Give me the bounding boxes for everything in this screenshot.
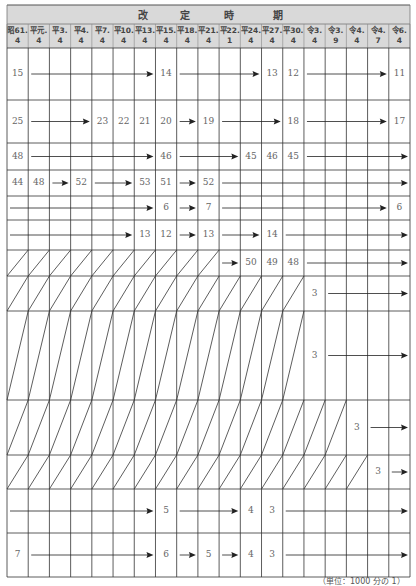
rate-value: 13 [262, 68, 283, 78]
rate-value: 22 [113, 116, 134, 126]
rate-value: 20 [155, 116, 176, 126]
rate-value: 14 [262, 229, 283, 239]
rate-value: 12 [155, 229, 176, 239]
arrow-right-icon [62, 180, 69, 186]
rate-value: 18 [283, 116, 304, 126]
rate-value: 12 [283, 68, 304, 78]
rate-value: 13 [134, 229, 155, 239]
arrow-right-icon [146, 154, 153, 160]
rate-value: 19 [198, 116, 219, 126]
arrow-right-icon [401, 469, 408, 475]
arrow-right-icon [231, 260, 238, 266]
arrow-right-icon [380, 205, 387, 211]
arrow-right-icon [401, 180, 408, 186]
rate-value: 3 [346, 422, 367, 432]
rate-value: 4 [240, 505, 261, 515]
rate-value: 21 [134, 116, 155, 126]
arrow-right-icon [189, 232, 196, 238]
rate-value: 5 [198, 549, 219, 559]
arrow-right-icon [231, 154, 238, 160]
rate-value: 48 [7, 151, 28, 161]
rate-value: 3 [368, 466, 389, 476]
rate-value: 45 [240, 151, 261, 161]
rate-value: 6 [155, 549, 176, 559]
rate-value: 46 [155, 151, 176, 161]
rate-value: 3 [304, 350, 325, 360]
arrow-right-icon [146, 71, 153, 77]
rate-value: 13 [198, 229, 219, 239]
arrow-right-icon [401, 552, 408, 558]
rate-value: 44 [7, 177, 28, 187]
rate-value: 7 [7, 549, 28, 559]
arrow-right-icon [189, 205, 196, 211]
rate-value: 11 [389, 68, 410, 78]
rate-value: 3 [262, 505, 283, 515]
arrow-right-icon [146, 205, 153, 211]
arrow-right-icon [401, 260, 408, 266]
arrow-right-icon [146, 508, 153, 514]
rate-value: 23 [92, 116, 113, 126]
arrow-right-icon [253, 71, 260, 77]
rate-value: 15 [7, 68, 28, 78]
rate-value: 17 [389, 116, 410, 126]
arrow-right-icon [401, 425, 408, 431]
arrow-right-icon [146, 552, 153, 558]
arrow-right-icon [401, 353, 408, 359]
rate-value: 52 [71, 177, 92, 187]
arrow-right-icon [125, 180, 132, 186]
rate-value: 49 [262, 257, 283, 267]
arrow-right-icon [401, 508, 408, 514]
rate-value: 14 [155, 68, 176, 78]
arrow-right-icon [231, 552, 238, 558]
arrow-right-icon [189, 119, 196, 125]
rate-value: 25 [7, 116, 28, 126]
unit-note: （単位：1000 分の 1） [318, 575, 405, 586]
arrow-right-icon [274, 119, 281, 125]
rate-value: 6 [389, 202, 410, 212]
rate-value: 4 [240, 549, 261, 559]
rate-value: 53 [134, 177, 155, 187]
arrow-right-icon [401, 291, 408, 297]
rate-value: 48 [28, 177, 49, 187]
rate-value: 7 [198, 202, 219, 212]
arrow-right-icon [83, 119, 90, 125]
arrow-right-icon [231, 508, 238, 514]
rate-value: 6 [155, 202, 176, 212]
rate-value: 46 [262, 151, 283, 161]
arrow-right-icon [401, 154, 408, 160]
arrow-right-icon [189, 180, 196, 186]
arrow-right-icon [401, 232, 408, 238]
rate-value: 3 [262, 549, 283, 559]
rate-value: 52 [198, 177, 219, 187]
arrow-right-icon [253, 232, 260, 238]
rate-value: 48 [283, 257, 304, 267]
rate-value: 51 [155, 177, 176, 187]
rate-value: 50 [240, 257, 261, 267]
arrow-right-icon [380, 71, 387, 77]
arrow-right-icon [380, 119, 387, 125]
arrow-right-icon [125, 232, 132, 238]
rate-value: 5 [155, 505, 176, 515]
arrow-right-icon [189, 552, 196, 558]
rate-value: 45 [283, 151, 304, 161]
rate-value: 3 [304, 288, 325, 298]
